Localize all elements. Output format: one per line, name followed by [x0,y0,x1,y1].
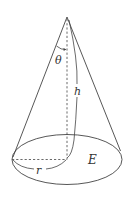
radius-label: r [36,164,42,177]
left-slant-edge [13,17,67,157]
cone-figure: θ h r E [0,0,132,199]
height-label: h [74,85,81,98]
theta-arrowhead [64,48,67,51]
cone-diagram: θ h r E [0,0,132,199]
theta-label: θ [55,54,62,67]
base-label: E [87,153,97,167]
